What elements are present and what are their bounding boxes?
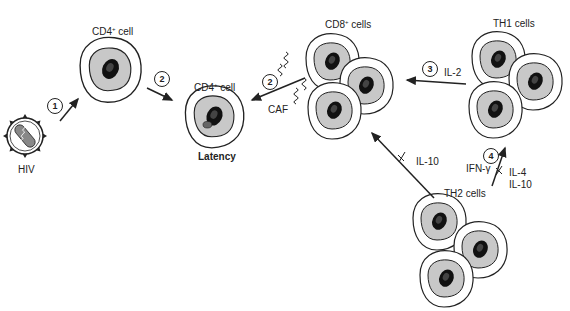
label-latency: Latency xyxy=(198,152,236,162)
cd8-cell-cluster xyxy=(306,34,393,139)
step-2b-badge: 2 xyxy=(262,74,278,90)
label-il10-th2: IL-10 xyxy=(509,180,532,190)
label-th1-cells: TH1 cells xyxy=(493,19,535,29)
label-il10-block: IL-10 xyxy=(416,157,439,167)
hiv-virion xyxy=(3,114,47,158)
step-1-badge: 1 xyxy=(47,98,63,114)
arrow-hiv-to-cd4 xyxy=(60,99,78,121)
step-4-badge: 4 xyxy=(483,148,499,164)
label-cd4-cell-latent: CD4+ cell xyxy=(194,82,235,93)
caf-squiggles xyxy=(278,52,306,104)
arrow-cd4-to-latent xyxy=(147,88,172,100)
step-2-badge: 2 xyxy=(154,71,170,87)
label-cd4-cell-top: CD4+ cell xyxy=(92,26,133,37)
arrow-th1-to-cd8 xyxy=(407,80,466,84)
label-th2-cells: TH2 cells xyxy=(444,189,486,199)
label-il4: IL-4 xyxy=(509,168,526,178)
cd4-cell-top xyxy=(80,37,141,102)
th2-cell-cluster xyxy=(413,194,507,307)
label-caf: CAF xyxy=(268,105,288,115)
cd4-cell-latent xyxy=(185,86,243,148)
label-il2: IL-2 xyxy=(444,68,461,78)
label-hiv: HIV xyxy=(18,165,35,175)
th1-cell-cluster xyxy=(469,32,562,138)
step-3-badge: 3 xyxy=(422,61,438,77)
label-ifn-gamma: IFN-γ xyxy=(466,164,490,174)
label-cd8-cells: CD8+ cells xyxy=(325,19,371,30)
